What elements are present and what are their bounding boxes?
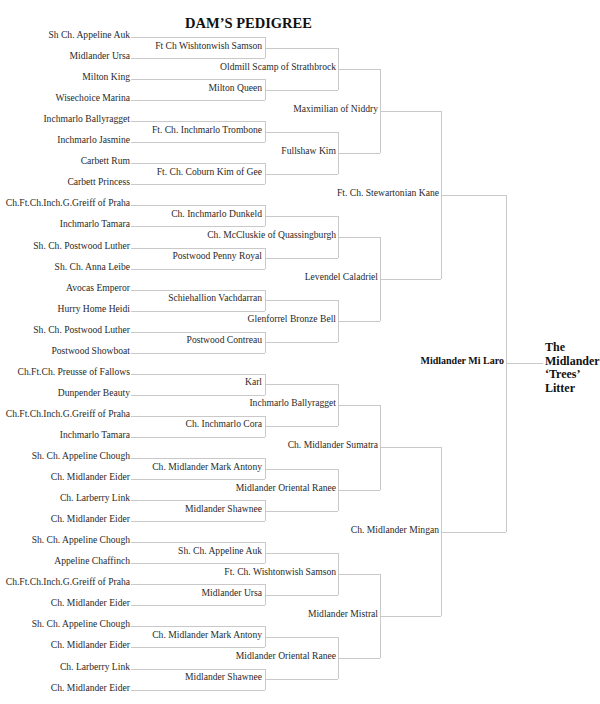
connector-line [131,395,265,396]
connector-line [265,384,338,385]
gen5-ancestor: Ch.Ft.Ch.Inch.G.Greiff of Praha [6,408,130,420]
connector-line [131,205,265,206]
connector-line [131,226,265,227]
gen5-ancestor: Sh. Ch. Appeline Chough [32,534,130,546]
connector-line [131,37,265,38]
litter-line-4: Litter [545,382,600,396]
subject-dam: Midlander Mi Laro [420,355,504,367]
gen5-ancestor: Sh. Ch. Postwood Luther [33,240,130,252]
connector-line [131,248,265,249]
gen4-ancestor: Ft. Ch. Inchmarlo Trombone [152,124,262,136]
gen5-ancestor: Inchmarlo Jasmine [57,134,130,146]
gen5-ancestor: Postwood Showboat [51,345,130,357]
gen1-parent: Ch. Midlander Mingan [351,524,439,536]
gen5-ancestor: Sh Ch. Appeline Auk [48,29,130,41]
connector-line [131,374,265,375]
connector-line [131,437,265,438]
gen5-ancestor: Ch. Midlander Eider [51,471,130,483]
connector-line [265,553,338,554]
gen4-ancestor: Ft Ch Wishtonwish Samson [155,40,262,52]
connector-line [131,353,265,354]
gen5-ancestor: Appeline Chaffinch [54,555,130,567]
gen3-ancestor: Ch. McCluskie of Quassingburgh [207,229,336,241]
connector-line [131,58,265,59]
gen5-ancestor: Inchmarlo Tamara [60,218,130,230]
gen4-ancestor: Sh. Ch. Appeline Auk [178,545,262,557]
connector-line [131,269,265,270]
connector-line [131,416,265,417]
gen5-ancestor: Sh. Ch. Appeline Chough [32,450,130,462]
connector-line [131,584,265,585]
connector-line [380,616,441,617]
connector-line [265,300,338,301]
gen4-ancestor: Postwood Penny Royal [172,250,262,262]
gen5-ancestor: Carbett Rum [81,155,130,167]
connector-line [131,290,265,291]
connector-line [265,174,338,175]
gen3-ancestor: Midlander Oriental Ranee [236,482,336,494]
gen5-ancestor: Ch. Midlander Eider [51,513,130,525]
connector-line [265,595,338,596]
gen2-ancestor: Maximilian of Niddry [293,103,378,115]
connector-line [131,669,265,670]
gen4-ancestor: Midlander Ursa [202,587,262,599]
connector-line [265,679,338,680]
connector-line [131,184,265,185]
gen4-ancestor: Ft. Ch. Coburn Kim of Gee [157,166,262,178]
gen5-ancestor: Inchmarlo Ballyragget [43,113,130,125]
gen4-ancestor: Ch. Midlander Mark Antony [152,629,262,641]
litter-line-3: ‘Trees’ [545,368,600,382]
connector-line [265,216,338,217]
gen5-ancestor: Ch. Midlander Eider [51,639,130,651]
connector-line [131,626,265,627]
connector-line [265,90,338,91]
connector-line [131,332,265,333]
gen5-ancestor: Dunpender Beauty [58,387,130,399]
gen4-ancestor: Schiehallion Vachdarran [168,292,262,304]
gen5-ancestor: Ch. Larberry Link [60,661,130,673]
gen5-ancestor: Sh. Ch. Appeline Chough [32,618,130,630]
connector-line [131,163,265,164]
connector-line [131,479,265,480]
gen5-ancestor: Ch.Ft.Ch.Inch.G.Greiff of Praha [6,576,130,588]
connector-line [265,342,338,343]
gen4-ancestor: Karl [245,376,262,388]
connector-line [506,363,543,364]
gen5-ancestor: Ch. Midlander Eider [51,682,130,694]
connector-line [131,690,265,691]
connector-line [338,69,380,70]
connector-line [131,79,265,80]
gen1-parent: Ft. Ch. Stewartonian Kane [337,187,439,199]
connector-line [265,469,338,470]
gen5-ancestor: Midlander Ursa [70,50,130,62]
gen4-ancestor: Ch. Inchmarlo Dunkeld [171,208,262,220]
gen5-ancestor: Ch. Midlander Eider [51,597,130,609]
connector-line [131,647,265,648]
connector-line [380,111,441,112]
gen5-ancestor: Inchmarlo Tamara [60,429,130,441]
connector-line [131,542,265,543]
gen2-ancestor: Levendel Caladriel [305,271,378,283]
connector-line [338,574,380,575]
connector-line [131,563,265,564]
connector-line [338,321,380,322]
gen4-ancestor: Milton Queen [208,82,262,94]
connector-line [338,405,380,406]
gen3-ancestor: Glenforrel Bronze Bell [248,313,336,325]
connector-line [265,48,338,49]
connector-line [265,258,338,259]
gen2-ancestor: Midlander Mistral [308,608,378,620]
connector-line [380,279,441,280]
gen4-ancestor: Midlander Shawnee [185,671,262,683]
gen5-ancestor: Ch.Ft.Ch.Inch.G.Greiff of Praha [6,197,130,209]
connector-line [265,426,338,427]
gen4-ancestor: Postwood Contreau [187,334,262,346]
litter-line-1: The [545,341,600,355]
gen4-ancestor: Ch. Inchmarlo Cora [186,418,262,430]
gen3-ancestor: Fullshaw Kim [281,145,336,157]
gen3-ancestor: Oldmill Scamp of Strathbrock [220,61,336,73]
connector-line [338,658,380,659]
gen5-ancestor: Ch. Larberry Link [60,492,130,504]
litter-line-2: Midlander [545,355,600,369]
